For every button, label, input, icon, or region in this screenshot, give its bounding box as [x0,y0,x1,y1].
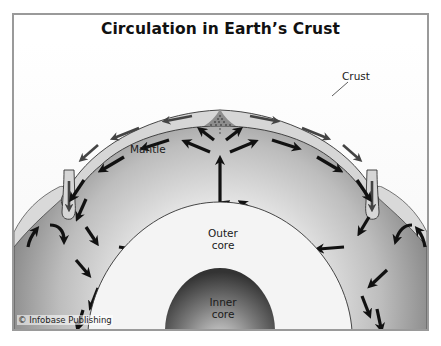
inner-core-label-line1: Inner [203,296,243,308]
outer-core-label-line2: core [203,239,243,251]
outer-core-label: Outer core [203,227,243,251]
earth-cross-section [14,42,427,331]
outer-core-label-line1: Outer [203,227,243,239]
crust-leader-line [330,81,350,97]
mantle-label: Mantle [130,143,166,155]
title-bar: Circulation in Earth’s Crust [14,15,427,43]
diagram-title: Circulation in Earth’s Crust [101,20,340,38]
inner-core-label-line2: core [203,308,243,320]
inner-core-label: Inner core [203,296,243,320]
copyright-credit: © Infobase Publishing [17,315,113,325]
diagram-frame: Circulation in Earth’s Crust [12,13,429,331]
